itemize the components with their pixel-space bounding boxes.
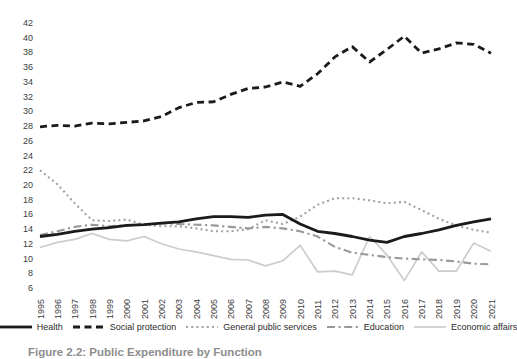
y-tick-label: 14 — [23, 224, 33, 234]
x-tick-label: 1999 — [105, 299, 115, 319]
x-tick-label: 2017 — [417, 299, 427, 319]
y-tick-label: 12 — [23, 239, 33, 249]
y-tick-label: 42 — [23, 18, 33, 28]
general-public-services-line — [40, 170, 491, 233]
legend-item-economic-affairs: Economic affairs — [413, 322, 517, 332]
y-tick-label: 32 — [23, 92, 33, 102]
y-tick-label: 22 — [23, 165, 33, 175]
x-tick-label: 2014 — [365, 299, 375, 319]
y-tick-label: 30 — [23, 106, 33, 116]
legend-item-health: Health — [0, 322, 63, 332]
x-tick-label: 2001 — [140, 299, 150, 319]
y-tick-label: 38 — [23, 47, 33, 57]
x-tick-label: 2021 — [487, 299, 497, 319]
x-tick-label: 1998 — [88, 299, 98, 319]
x-tick-label: 2020 — [469, 299, 479, 319]
y-tick-label: 20 — [23, 180, 33, 190]
x-tick-label: 2000 — [122, 299, 132, 319]
legend-label-social-protection: Social protection — [110, 322, 177, 332]
x-tick-label: 2009 — [278, 299, 288, 319]
x-tick-label: 2015 — [382, 299, 392, 319]
education-line — [40, 223, 491, 264]
x-tick-label: 1996 — [53, 299, 63, 319]
legend-item-social-protection: Social protection — [72, 322, 177, 332]
general-public-services-swatch-icon — [185, 322, 219, 332]
education-swatch-icon — [326, 322, 360, 332]
legend-label-education: Education — [364, 322, 404, 332]
chart-legend: HealthSocial protectionGeneral public se… — [0, 319, 516, 335]
x-tick-label: 2010 — [296, 299, 306, 319]
legend-label-general-public-services: General public services — [223, 322, 317, 332]
x-tick-label: 1997 — [70, 299, 80, 319]
y-tick-label: 40 — [23, 33, 33, 43]
legend-label-economic-affairs: Economic affairs — [451, 322, 517, 332]
social-protection-line — [40, 36, 491, 127]
y-tick-label: 26 — [23, 136, 33, 146]
x-tick-label: 2006 — [226, 299, 236, 319]
economic-affairs-swatch-icon — [413, 322, 447, 332]
x-tick-label: 2019 — [452, 299, 462, 319]
x-tick-label: 2005 — [209, 299, 219, 319]
y-tick-label: 6 — [28, 283, 33, 293]
y-tick-label: 24 — [23, 151, 33, 161]
x-tick-label: 2007 — [244, 299, 254, 319]
x-tick-label: 2016 — [400, 299, 410, 319]
economic-affairs-line — [40, 234, 491, 281]
y-axis-labels: 424038363432302826242220181614121086 — [23, 18, 33, 293]
x-axis-labels: 1995199619971998199920002001200220032004… — [36, 299, 497, 319]
y-tick-label: 16 — [23, 209, 33, 219]
y-tick-label: 18 — [23, 195, 33, 205]
x-tick-label: 2008 — [261, 299, 271, 319]
x-tick-label: 2002 — [157, 299, 167, 319]
health-swatch-icon — [0, 322, 33, 332]
y-tick-label: 28 — [23, 121, 33, 131]
expenditure-line-chart: 4240383634323028262422201816141210861995… — [0, 0, 516, 320]
x-tick-label: 2018 — [434, 299, 444, 319]
x-tick-label: 2012 — [330, 299, 340, 319]
social-protection-swatch-icon — [72, 322, 106, 332]
x-tick-label: 2004 — [192, 299, 202, 319]
y-tick-label: 36 — [23, 62, 33, 72]
x-tick-label: 2013 — [348, 299, 358, 319]
x-tick-label: 1995 — [36, 299, 46, 319]
figure-caption: Figure 2.2: Public Expenditure by Functi… — [28, 346, 498, 354]
y-tick-label: 10 — [23, 254, 33, 264]
y-tick-label: 34 — [23, 77, 33, 87]
legend-label-health: Health — [37, 322, 63, 332]
x-tick-label: 2003 — [174, 299, 184, 319]
legend-item-education: Education — [326, 322, 404, 332]
x-tick-label: 2011 — [313, 300, 323, 319]
legend-item-general-public-services: General public services — [185, 322, 317, 332]
y-tick-label: 8 — [28, 268, 33, 278]
